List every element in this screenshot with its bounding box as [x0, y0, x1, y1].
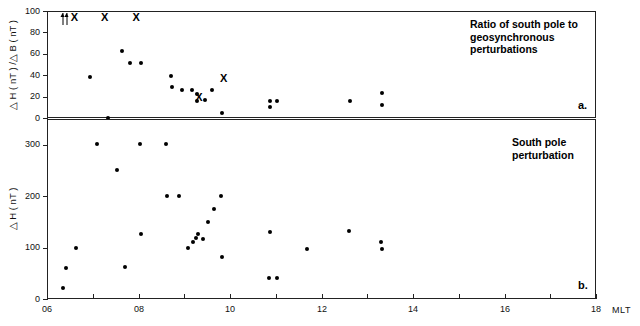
data-point	[165, 194, 169, 198]
x-tick-label: 10	[215, 305, 245, 314]
data-point	[120, 49, 124, 53]
panel-a-y-tick	[43, 75, 48, 76]
panel-a-y-axis-title: △ H ( nT ) /△ B ( nT )	[7, 19, 18, 109]
data-point	[380, 91, 384, 95]
x-axis-unit-label: MLT	[612, 305, 631, 315]
data-point	[164, 142, 168, 146]
data-point	[347, 229, 351, 233]
x-tick	[139, 294, 140, 299]
data-point	[203, 98, 207, 102]
x-tick	[413, 294, 414, 299]
x-tick	[367, 294, 368, 299]
data-point	[190, 88, 194, 92]
panel-a-y-tick	[43, 97, 48, 98]
data-point	[196, 232, 200, 236]
x-tick-label: 08	[124, 305, 154, 314]
data-point	[128, 61, 132, 65]
panel-b-y-axis-title: △ H ( nT )	[7, 188, 18, 231]
x-tick-label: 12	[307, 305, 337, 314]
panel-a-y-tick-label: 0	[7, 114, 40, 123]
off-scale-arrow-icon	[67, 13, 68, 25]
panel-b-y-tick-label: 0	[7, 295, 40, 304]
data-point	[180, 88, 184, 92]
data-point	[177, 194, 181, 198]
panel-a-y-tick	[43, 32, 48, 33]
data-point	[115, 168, 119, 172]
data-point	[219, 194, 223, 198]
x-tick-label: 06	[32, 305, 62, 314]
data-point	[123, 265, 127, 269]
data-point	[138, 142, 142, 146]
data-point	[61, 286, 65, 290]
x-tick	[276, 294, 277, 299]
x-tick	[596, 294, 597, 299]
x-tick	[93, 294, 94, 299]
data-point-x-marker: X	[101, 12, 108, 23]
data-point	[220, 111, 224, 115]
x-tick	[47, 294, 48, 299]
data-point	[268, 99, 272, 103]
data-point	[64, 266, 68, 270]
x-tick	[322, 294, 323, 299]
x-tick-label: 18	[581, 305, 611, 314]
data-point-x-marker: X	[133, 12, 140, 23]
data-point	[380, 103, 384, 107]
data-point-x-marker: X	[195, 92, 202, 103]
data-point	[186, 246, 190, 250]
panel-b-y-tick	[43, 299, 48, 300]
panel-a-y-tick	[43, 54, 48, 55]
panel-b-annotation: South pole perturbation	[512, 136, 574, 161]
x-tick-label: 14	[398, 305, 428, 314]
data-point	[275, 276, 279, 280]
data-point	[191, 240, 195, 244]
data-point-x-marker: X	[220, 72, 227, 83]
data-point	[206, 220, 210, 224]
x-tick-label: 16	[490, 305, 520, 314]
data-point	[380, 247, 384, 251]
x-tick	[505, 294, 506, 299]
data-point	[268, 105, 272, 109]
data-point	[379, 240, 383, 244]
data-point	[210, 88, 214, 92]
panel-b-y-tick-label: 100	[7, 243, 40, 252]
data-point	[169, 74, 173, 78]
panel-b-y-tick	[43, 196, 48, 197]
data-point	[275, 99, 279, 103]
data-point	[348, 99, 352, 103]
panel-b-y-tick	[43, 248, 48, 249]
data-point	[139, 232, 143, 236]
panel-b-letter: b.	[578, 279, 588, 291]
x-tick	[550, 294, 551, 299]
data-point	[268, 230, 272, 234]
data-point	[220, 255, 224, 259]
x-tick	[459, 294, 460, 299]
panel-a-y-tick	[43, 11, 48, 12]
panel-a-y-tick-label: 100	[7, 7, 40, 16]
data-point	[170, 85, 174, 89]
data-point	[74, 246, 78, 250]
data-point	[201, 237, 205, 241]
data-point	[139, 61, 143, 65]
data-point	[194, 236, 198, 240]
panel-b-y-tick	[43, 145, 48, 146]
data-point	[305, 247, 309, 251]
data-point	[88, 75, 92, 79]
data-point-x-marker: X	[71, 12, 78, 23]
panel-b-y-tick-label: 300	[7, 140, 40, 149]
panel-a-letter: a.	[578, 99, 587, 111]
panel-a-annotation: Ratio of south pole to geosynchronous pe…	[470, 18, 578, 56]
figure-root: 020406080100XXXXX △ H ( nT ) /△ B ( nT )…	[0, 0, 640, 326]
x-tick	[230, 294, 231, 299]
x-tick	[184, 294, 185, 299]
data-point	[95, 142, 99, 146]
data-point	[212, 207, 216, 211]
data-point	[267, 276, 271, 280]
